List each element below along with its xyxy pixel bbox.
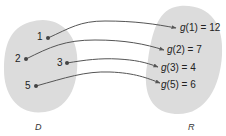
dot-2 [24,57,28,61]
domain-element-2: 2 [15,54,21,64]
domain-element-1: 1 [37,32,43,42]
domain-element-3: 3 [57,58,63,68]
arrow-3-to-g3 [67,59,158,67]
range-element-g1: g(1) = 12 [180,23,220,33]
range-value: (2) = 7 [173,44,202,55]
range-value: (3) = 4 [167,62,196,73]
domain-set-label: D [35,122,42,132]
dot-5 [34,84,38,88]
range-set-label: R [188,122,195,132]
range-value: (5) = 6 [167,79,196,90]
range-element-g3: g(3) = 4 [161,63,196,73]
dot-3 [65,61,69,65]
domain-element-5: 5 [25,81,31,91]
dot-1 [46,36,50,40]
range-element-g2: g(2) = 7 [167,45,202,55]
range-element-g5: g(5) = 6 [161,80,196,90]
range-value: (1) = 12 [186,22,221,33]
